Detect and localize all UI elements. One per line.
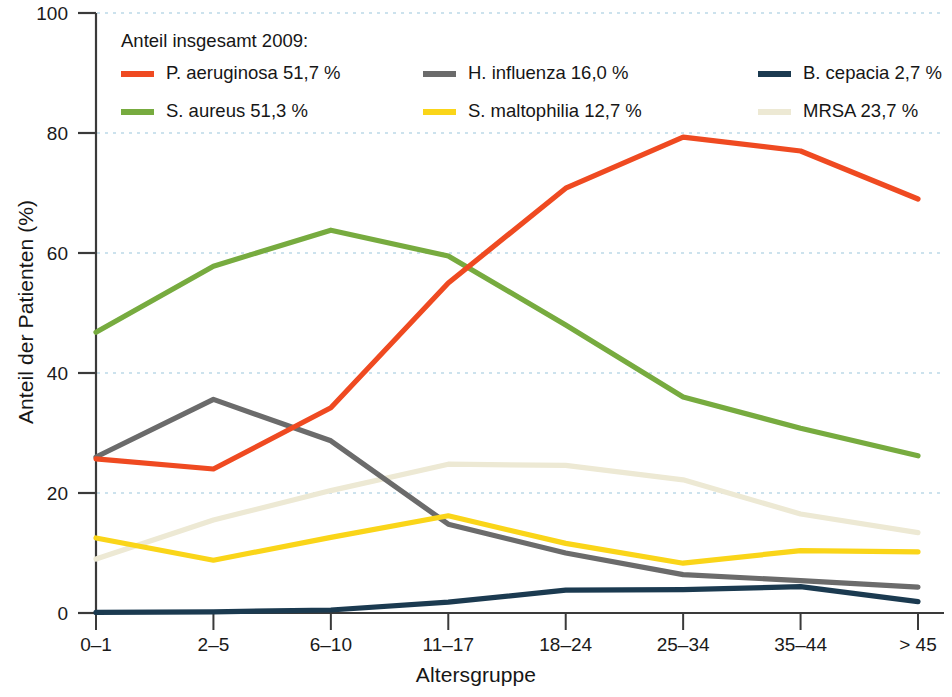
gridlines [97, 13, 944, 493]
x-tick-label: 25–34 [657, 634, 710, 655]
x-tick-label: > 45 [899, 634, 937, 655]
x-tick-label: 2–5 [198, 634, 230, 655]
x-axis-ticks: 0–12–56–1011–1718–2425–3435–44> 45 [80, 613, 937, 655]
y-tick-label: 20 [47, 483, 68, 504]
y-tick-label: 0 [57, 603, 68, 624]
x-tick-label: 35–44 [774, 634, 827, 655]
series-line-b-cepacia [96, 587, 918, 613]
y-axis-title: Anteil der Patienten (%) [14, 182, 38, 442]
legend-label: H. influenza 16,0 % [468, 62, 628, 83]
y-axis-ticks: 020406080100 [36, 3, 96, 624]
line-chart-plot: 020406080100 0–12–56–1011–1718–2425–3435… [0, 0, 952, 697]
x-axis-title: Altersgruppe [0, 663, 952, 687]
y-tick-label: 60 [47, 243, 68, 264]
legend-label: B. cepacia 2,7 % [803, 62, 942, 83]
x-tick-label: 0–1 [80, 634, 112, 655]
x-tick-label: 6–10 [310, 634, 352, 655]
legend-label: P. aeruginosa 51,7 % [166, 62, 341, 83]
chart-figure: 020406080100 0–12–56–1011–1718–2425–3435… [0, 0, 952, 697]
legend-label: MRSA 23,7 % [803, 100, 918, 121]
legend-label: S. maltophilia 12,7 % [468, 100, 642, 121]
series-line-p-aeruginosa [96, 137, 918, 469]
x-tick-label: 18–24 [539, 634, 592, 655]
series-line-mrsa [96, 464, 918, 559]
data-series-group [96, 137, 918, 612]
series-line-s-aureus [96, 230, 918, 456]
y-tick-label: 80 [47, 123, 68, 144]
y-tick-label: 40 [47, 363, 68, 384]
x-tick-label: 11–17 [423, 634, 474, 655]
legend-label: S. aureus 51,3 % [166, 100, 308, 121]
legend-title: Anteil insgesamt 2009: [121, 30, 308, 51]
legend: Anteil insgesamt 2009:P. aeruginosa 51,7… [121, 30, 942, 121]
y-tick-label: 100 [36, 3, 68, 24]
